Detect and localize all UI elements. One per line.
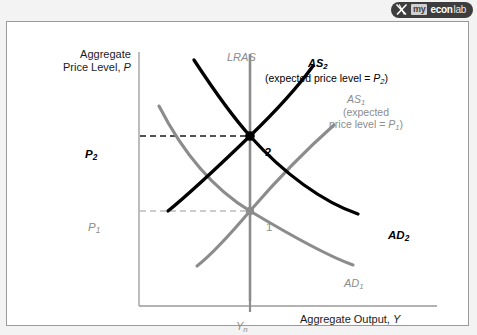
x-axis-title: Aggregate Output, Y xyxy=(300,313,400,326)
y-axis-title: Aggregate Price Level, P xyxy=(63,48,131,73)
equilibrium-point-2 xyxy=(245,131,255,141)
as2-curve xyxy=(168,66,313,211)
as1-note: (expectedprice level = P1) xyxy=(329,106,403,133)
brand-pill: my econ lab xyxy=(391,2,473,18)
as2-label: AS2 xyxy=(308,57,328,71)
lras-label: LRAS xyxy=(227,51,256,64)
as2-note: (expected price level = P2) xyxy=(265,72,388,87)
myeconlab-x-mark-icon xyxy=(395,3,408,16)
y-axis-title-line1: Aggregate xyxy=(80,48,131,60)
brand-lab-text: lab xyxy=(454,4,466,15)
ad2-label: AD2 xyxy=(388,229,409,244)
brand-my-text: my xyxy=(411,4,427,15)
yn-axis-label: Yn xyxy=(236,320,248,334)
p1-axis-label: P1 xyxy=(88,221,100,236)
page-root: my econ lab xyxy=(0,0,477,335)
p2-axis-label: P2 xyxy=(85,148,97,163)
y-axis-title-line2: Price Level, P xyxy=(63,61,131,73)
figure-frame: Aggregate Price Level, P Aggregate Outpu… xyxy=(6,21,469,326)
equilibrium-point-2-label: 2 xyxy=(265,146,271,159)
equilibrium-point-1 xyxy=(246,207,254,215)
brand-econ-text: econ xyxy=(430,4,452,15)
equilibrium-point-1-label: 1 xyxy=(266,221,272,234)
ad1-label: AD1 xyxy=(344,277,364,291)
myeconlab-brand: my econ lab xyxy=(391,1,473,18)
